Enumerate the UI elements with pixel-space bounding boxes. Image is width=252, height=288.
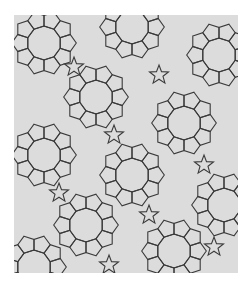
tiling-pattern (14, 15, 238, 273)
tiling-panel (14, 15, 238, 273)
